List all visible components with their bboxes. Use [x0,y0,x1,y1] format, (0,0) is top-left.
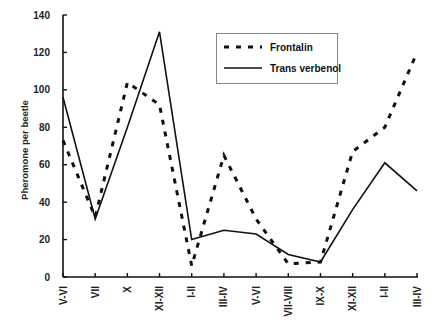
x-tick-label: VII-VIII [283,286,294,317]
legend-label-frontalin: Frontalin [270,42,313,53]
y-axis: 020406080100120140 [33,10,67,283]
y-axis-title: Pheromone per beetle [19,100,30,200]
x-tick-label: III-IV [412,286,423,307]
x-tick-label: I-II [186,286,197,298]
x-tick-label: V-VI [58,286,69,305]
legend-label-trans-verbenol: Trans verbenol [270,63,341,74]
x-tick-label: V-VI [251,286,262,305]
line-chart: 020406080100120140 V-VIVIIXXI-XIII-IIIII… [0,0,440,334]
y-tick-label: 20 [39,234,51,245]
x-tick-label: IX-X [315,286,326,306]
y-tick-label: 120 [33,47,50,58]
x-axis: V-VIVIIXXI-XIII-IIIII-IVV-VIVII-VIIIIX-X… [58,273,423,317]
x-tick-label: I-II [379,286,390,298]
x-tick-label: X [122,286,133,293]
y-tick-label: 100 [33,84,50,95]
y-tick-label: 40 [39,197,51,208]
x-tick-label: XI-XII [347,286,358,311]
y-tick-label: 60 [39,159,51,170]
legend: Frontalin Trans verbenol [217,34,342,84]
y-tick-label: 140 [33,10,50,21]
x-tick-label: XI-XII [154,286,165,311]
y-tick-label: 80 [39,122,51,133]
x-tick-label: III-IV [218,286,229,307]
x-tick-label: VII [90,286,101,298]
y-tick-label: 0 [44,272,50,283]
